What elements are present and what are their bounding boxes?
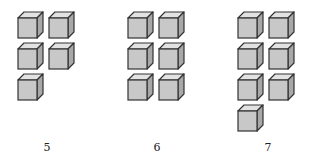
cube-icon (127, 11, 154, 39)
cube-icon (17, 42, 44, 70)
cube-icon (237, 104, 264, 132)
cube-icon (237, 73, 264, 101)
cube-icon (127, 73, 154, 101)
cube-icon (48, 42, 75, 70)
cube-icon (237, 11, 264, 39)
cube-icon (127, 42, 154, 70)
group-count-label: 7 (258, 141, 278, 154)
group-count-label: 6 (147, 141, 167, 154)
cube-icon (237, 42, 264, 70)
cube-icon (268, 11, 295, 39)
cube-icon (268, 42, 295, 70)
cube-icon (17, 73, 44, 101)
cube-icon (17, 11, 44, 39)
cube-icon (158, 42, 185, 70)
cube-icon (158, 73, 185, 101)
cube-icon (268, 73, 295, 101)
group-count-label: 5 (37, 141, 57, 154)
cube-icon (48, 11, 75, 39)
cube-icon (158, 11, 185, 39)
